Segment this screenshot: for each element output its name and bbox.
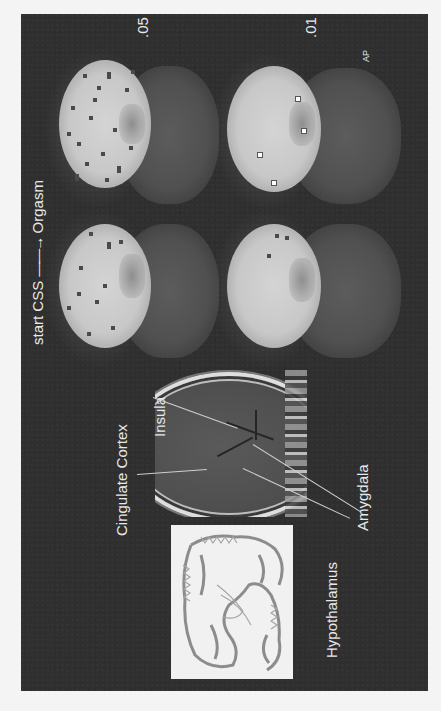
figure-panel: start CSS ——→ Orgasm .05 .01 AP [21, 14, 428, 691]
mri-axial-slice [155, 370, 307, 517]
threshold-label-05: .05 [134, 17, 151, 38]
pet-scan-start-05 [49, 214, 219, 364]
pet-scan-orgasm-01 [217, 58, 407, 208]
label-cingulate-cortex: Cingulate Cortex [113, 424, 130, 536]
title-end: Orgasm [29, 180, 46, 233]
pet-scan-start-01 [217, 214, 407, 364]
label-amygdala: Amygdala [354, 464, 371, 531]
figure-title: start CSS ——→ Orgasm [29, 180, 46, 345]
label-insula: Insula [151, 397, 168, 437]
pet-scan-orgasm-05 [49, 54, 219, 204]
brain-section-icon [171, 525, 293, 679]
label-hypothalamus: Hypothalamus [323, 562, 340, 658]
skull-base [285, 370, 307, 517]
histology-coronal-section [171, 525, 293, 679]
threshold-label-01: .01 [302, 17, 319, 38]
